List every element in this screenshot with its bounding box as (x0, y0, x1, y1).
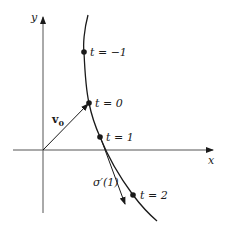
y-axis-label: y (30, 11, 38, 24)
initial-position-vector (43, 104, 88, 150)
point-t-0 (86, 100, 92, 106)
tangent-vector (101, 139, 125, 204)
point-label-t-minus-1: t = −1 (90, 46, 127, 59)
point-t-2 (130, 192, 136, 198)
x-axis-label: x (208, 154, 215, 167)
point-t-1 (97, 134, 103, 140)
point-label-t-0: t = 0 (95, 97, 123, 110)
point-t-minus-1 (81, 49, 87, 55)
tangent-vector-label: σ′(1) (93, 176, 119, 189)
v0-label: v0 (51, 113, 64, 128)
diagram-canvas: y x v0 σ′(1) t = −1 t = 0 t = 1 t = 2 (0, 0, 227, 234)
point-label-t-1: t = 1 (106, 131, 134, 144)
point-label-t-2: t = 2 (140, 189, 168, 202)
